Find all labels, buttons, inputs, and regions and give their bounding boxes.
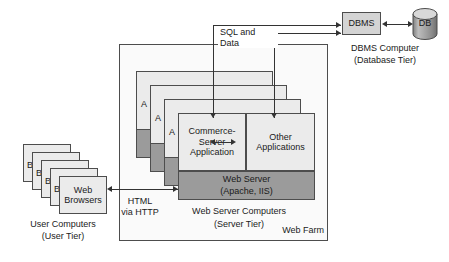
server-tier-caption-line1: Web Server Computers [163,206,315,217]
web-server-label-line1: Web Server [179,173,314,185]
user-tier-caption-line2: (User Tier) [8,231,118,242]
architecture-diagram: A A A Commerce- Server Application Other… [0,0,449,262]
web-farm-label: Web Farm [270,225,324,236]
database-tier-caption-line2: (Database Tier) [330,55,440,66]
html-http-label-line2: via HTTP [110,207,170,218]
server-stack-label-3: A [153,113,163,124]
sql-and-data-label: SQL and Data [218,27,278,48]
web-server-label-line2: (Apache, IIS) [179,185,314,197]
web-browsers-label: Web Browsers [60,177,106,213]
server-stack-label-2: A [167,127,177,138]
other-applications-label: Other Applications [247,114,314,170]
db-label: DB [413,15,437,31]
dbms-label: DBMS [343,13,380,34]
database-tier-caption-line1: DBMS Computer [330,43,440,54]
server-stack-label-4: A [139,99,149,110]
user-tier-caption-line1: User Computers [8,219,118,230]
html-http-label-line1: HTML [110,196,170,207]
